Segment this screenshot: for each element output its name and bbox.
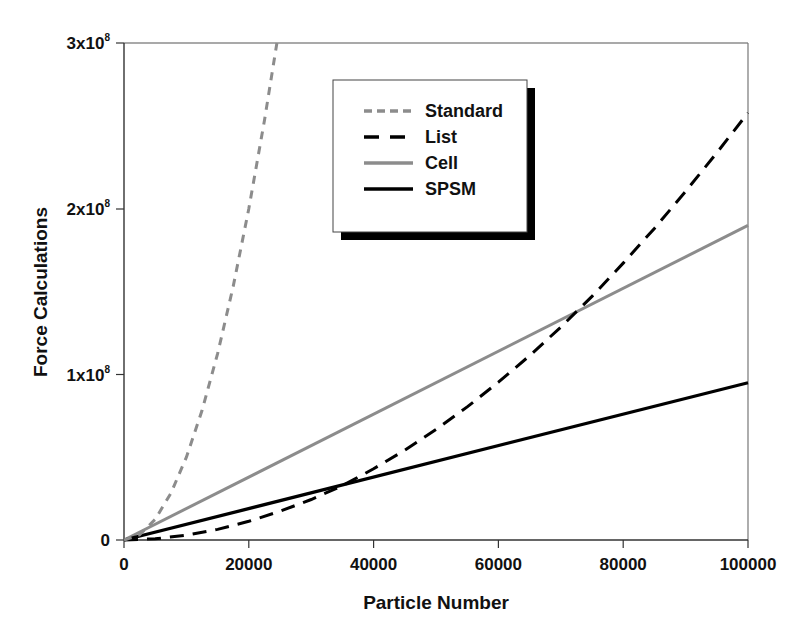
legend-label-spsm: SPSM <box>425 179 476 199</box>
x-tick-label-100000: 100000 <box>720 555 777 574</box>
chart: 0 1x108 2x108 3x108 0 20000 40000 60000 … <box>0 0 811 641</box>
y-tick-label-2e8: 2x108 <box>67 198 111 219</box>
series-standard-line <box>124 43 277 540</box>
x-axis-ticks <box>124 540 748 548</box>
x-tick-label-80000: 80000 <box>600 555 647 574</box>
series-cell-line <box>124 225 748 540</box>
x-tick-label-20000: 20000 <box>225 555 272 574</box>
x-tick-label-60000: 60000 <box>475 555 522 574</box>
x-tick-labels: 0 20000 40000 60000 80000 100000 <box>119 555 776 574</box>
legend-label-standard: Standard <box>425 101 503 121</box>
y-tick-label-1e8: 1x108 <box>67 364 111 385</box>
legend: Standard List Cell SPSM <box>333 80 535 240</box>
x-tick-label-0: 0 <box>119 555 128 574</box>
y-tick-label-3e8: 3x108 <box>67 32 111 53</box>
x-tick-label-40000: 40000 <box>350 555 397 574</box>
y-tick-label-0: 0 <box>101 531 110 550</box>
y-axis-ticks <box>116 43 124 540</box>
y-axis-title: Force Calculations <box>30 207 51 377</box>
x-axis-title: Particle Number <box>363 592 509 613</box>
legend-label-list: List <box>425 127 457 147</box>
series-spsm-line <box>124 383 748 540</box>
y-tick-labels: 0 1x108 2x108 3x108 <box>67 32 111 550</box>
legend-label-cell: Cell <box>425 153 458 173</box>
